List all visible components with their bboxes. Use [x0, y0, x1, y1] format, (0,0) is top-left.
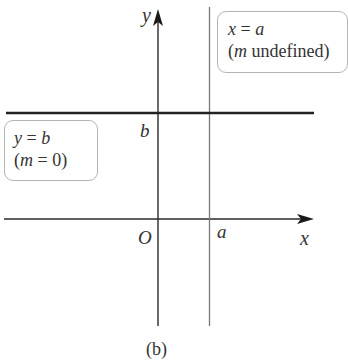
- horizontal-line-annotation-box: y = b (m = 0): [4, 120, 98, 181]
- y-axis-label: y: [142, 5, 151, 25]
- eq-sign: =: [22, 128, 41, 148]
- horizontal-line-slope-note: (m = 0): [14, 149, 97, 171]
- slope-var: m: [234, 41, 247, 61]
- vertical-line-slope-note: (m undefined): [228, 40, 347, 62]
- x-tick-a-label: a: [217, 222, 227, 241]
- slope-var: m: [20, 150, 33, 170]
- eq-sign: =: [236, 19, 255, 39]
- vertical-line-annotation-box: x = a (m undefined): [217, 11, 348, 73]
- slope-rest: = 0): [33, 150, 67, 170]
- slope-rest: undefined): [247, 41, 329, 61]
- horizontal-line-equation: y = b: [14, 127, 97, 149]
- eq-var: y: [14, 128, 22, 148]
- y-tick-b-label: b: [140, 121, 150, 140]
- eq-val: b: [41, 128, 50, 148]
- vertical-line-equation: x = a: [228, 18, 347, 40]
- eq-var: x: [228, 19, 236, 39]
- x-axis-label: x: [300, 228, 309, 248]
- eq-val: a: [255, 19, 264, 39]
- figure-caption: (b): [146, 340, 167, 358]
- origin-label: O: [138, 228, 152, 247]
